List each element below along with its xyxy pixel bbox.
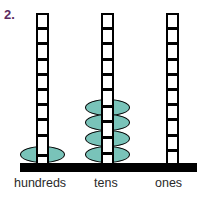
bead-tens[interactable] [85, 114, 130, 131]
rod-rung [168, 91, 177, 103]
rod-rung [38, 45, 47, 57]
rod-rung [103, 45, 112, 57]
place-label-tens: tens [94, 177, 118, 190]
rod-ones[interactable] [166, 13, 179, 166]
place-value-abacus-figure: 2. [0, 0, 204, 199]
rod-rung [103, 30, 112, 42]
rod-rung [38, 76, 47, 88]
rod-rung [168, 137, 177, 149]
problem-number: 2. [4, 8, 15, 21]
rod-rung [38, 91, 47, 103]
rod-hundreds-rungs [38, 15, 47, 164]
abacus-base-bar [20, 163, 197, 172]
rod-rung [38, 61, 47, 73]
rod-hundreds[interactable] [36, 13, 49, 166]
rod-rung [168, 45, 177, 57]
place-label-ones: ones [155, 177, 182, 190]
rod-rung [103, 15, 112, 27]
rod-rung [168, 15, 177, 27]
rod-rung [168, 30, 177, 42]
rod-ones-rungs [168, 15, 177, 164]
place-label-hundreds: hundreds [14, 177, 66, 190]
bead-tens[interactable] [85, 130, 130, 147]
rod-rung [38, 15, 47, 27]
rod-rung [38, 30, 47, 42]
bead-tens[interactable] [85, 146, 130, 163]
rod-rung [168, 61, 177, 73]
rod-rung [103, 61, 112, 73]
rod-rung [168, 121, 177, 133]
bead-hundreds[interactable] [20, 146, 65, 163]
rod-rung [168, 76, 177, 88]
rod-rung [38, 106, 47, 118]
rod-rung [103, 76, 112, 88]
rod-rung [38, 121, 47, 133]
rod-rung [168, 106, 177, 118]
